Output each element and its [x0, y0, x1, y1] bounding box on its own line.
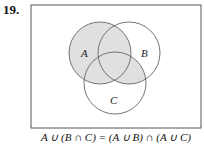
caption-equation: A ∪ (B ∩ C) = (A ∪ B) ∩ (A ∪ C)	[30, 131, 202, 144]
venn-diagram: A B C	[0, 0, 204, 147]
label-b: B	[141, 47, 148, 59]
label-a: A	[80, 47, 88, 59]
label-c: C	[110, 94, 118, 106]
